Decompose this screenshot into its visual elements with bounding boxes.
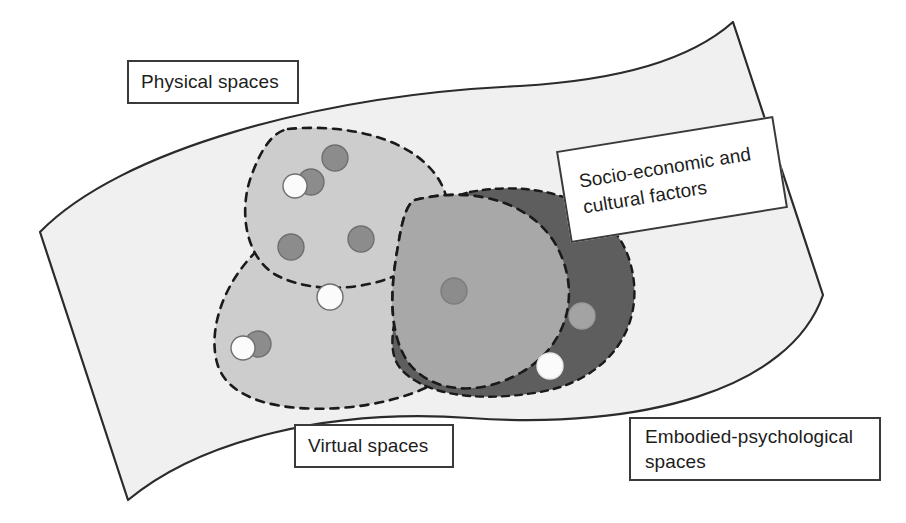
- dot-marker: [317, 284, 343, 310]
- label-physical-spaces[interactable]: Physical spaces: [127, 60, 299, 104]
- diagram-canvas: Physical spaces Socio-economic and cultu…: [0, 0, 906, 523]
- label-socio-economic-cultural-factors-text: Socio-economic and cultural factors: [577, 140, 767, 219]
- label-embodied-psychological-spaces-text: Embodied-psychological spaces: [645, 424, 865, 474]
- dot-marker: [278, 234, 304, 260]
- dot-marker: [283, 174, 307, 198]
- dot-marker: [231, 336, 255, 360]
- dot-marker: [348, 226, 374, 252]
- dot-marker: [441, 278, 467, 304]
- label-virtual-spaces[interactable]: Virtual spaces: [294, 424, 454, 468]
- dot-marker: [537, 353, 563, 379]
- label-virtual-spaces-text: Virtual spaces: [308, 433, 440, 458]
- dot-marker: [569, 303, 595, 329]
- dot-marker: [322, 145, 348, 171]
- label-embodied-psychological-spaces[interactable]: Embodied-psychological spaces: [629, 417, 881, 481]
- label-physical-spaces-text: Physical spaces: [141, 69, 285, 94]
